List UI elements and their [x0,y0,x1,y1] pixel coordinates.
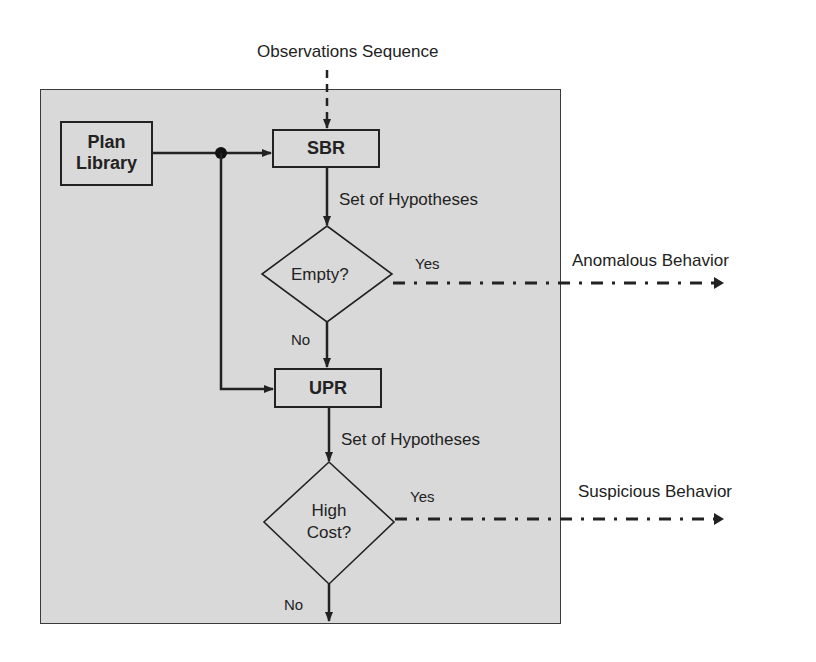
empty-decision-label: Empty? [291,265,349,285]
high-cost-line2: Cost? [299,522,359,544]
sbr-output-label: Set of Hypotheses [339,190,478,210]
upr-label: UPR [275,378,381,399]
high-cost-yes-label: Yes [410,488,434,505]
plan-library-label: Plan Library [61,132,152,174]
sbr-label: SBR [273,138,379,159]
high-cost-no-label: No [284,596,303,613]
flow-connectors [0,0,816,662]
anomalous-behavior-label: Anomalous Behavior [572,251,729,271]
plan-library-line2: Library [61,153,152,174]
high-cost-decision-label: High Cost? [299,500,359,544]
plan-library-line1: Plan [61,132,152,153]
empty-no-label: No [291,331,310,348]
upr-output-label: Set of Hypotheses [341,430,480,450]
observations-sequence-label: Observations Sequence [257,42,438,62]
suspicious-behavior-label: Suspicious Behavior [578,482,732,502]
empty-yes-label: Yes [415,255,439,272]
high-cost-line1: High [299,500,359,522]
